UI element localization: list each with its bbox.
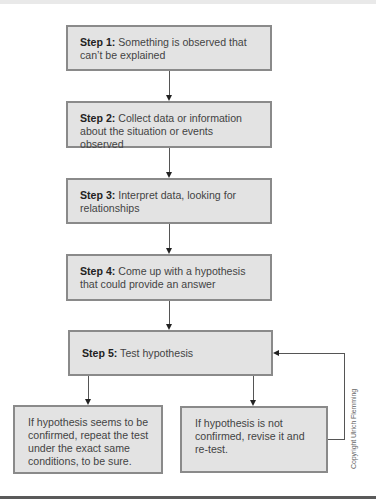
arrowhead-loop-icon (273, 350, 279, 356)
outcome-not-confirmed-text: If hypothesis is not confirmed, revise i… (195, 417, 305, 455)
step-1-box: Step 1: Something is observed that can’t… (66, 25, 272, 71)
loop-connector-vertical (344, 353, 345, 440)
loop-connector-horizontal-top (279, 353, 345, 354)
copyright-text: Copyright Ulrich Flemming (349, 397, 359, 469)
step-2-label: Step 2: (80, 112, 115, 124)
step-1-label: Step 1: (80, 36, 115, 48)
top-band (0, 0, 376, 4)
connector-2-3 (169, 148, 170, 172)
connector-4-5 (169, 301, 170, 324)
connector-5-confirmed (88, 376, 89, 399)
connector-5-not-confirmed (253, 376, 254, 400)
step-4-label: Step 4: (80, 265, 115, 277)
connector-1-2 (169, 71, 170, 96)
connector-3-4 (169, 224, 170, 248)
bottom-rule (0, 496, 376, 499)
step-5-box: Step 5: Test hypothesis (68, 330, 273, 376)
step-3-box: Step 3: Interpret data, looking for rela… (66, 178, 272, 224)
outcome-not-confirmed-box: If hypothesis is not confirmed, revise i… (180, 406, 328, 473)
step-5-label: Step 5: (82, 347, 117, 359)
step-4-box: Step 4: Come up with a hypothesis that c… (66, 254, 272, 301)
step-2-box: Step 2: Collect data or information abou… (66, 101, 272, 148)
outcome-confirmed-box: If hypothesis seems to be confirmed, rep… (13, 405, 163, 474)
step-5-text: Test hypothesis (117, 347, 193, 359)
loop-connector-horizontal-bottom (328, 439, 345, 440)
step-3-label: Step 3: (80, 189, 115, 201)
outcome-confirmed-text: If hypothesis seems to be confirmed, rep… (28, 416, 148, 467)
